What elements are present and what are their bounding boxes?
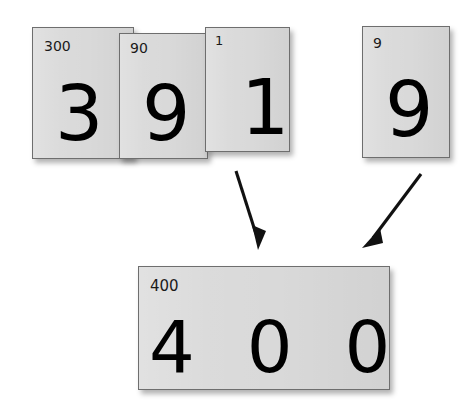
place-value-card-addend-ones[interactable]: 9 9: [362, 26, 450, 158]
arrow-down-right-icon: [222, 162, 278, 260]
card-label: 1: [215, 34, 223, 47]
card-digit: 1: [241, 70, 289, 146]
figure-canvas: 300 3 90 9 1 1 9 9 400 400: [0, 0, 468, 417]
card-label: 90: [130, 41, 148, 55]
arrow-down-left-icon: [348, 162, 434, 260]
place-value-card-result[interactable]: 400 400: [138, 266, 390, 390]
place-value-card-ones[interactable]: 1 1: [205, 27, 290, 152]
card-label: 400: [150, 279, 179, 294]
card-label: 9: [373, 36, 382, 50]
card-digit: 9: [142, 76, 190, 152]
card-digit: 3: [55, 76, 103, 152]
place-value-card-tens[interactable]: 90 9: [119, 33, 208, 159]
card-digits: 400: [149, 311, 390, 383]
card-digit: 9: [385, 72, 433, 148]
card-label: 300: [44, 39, 71, 53]
